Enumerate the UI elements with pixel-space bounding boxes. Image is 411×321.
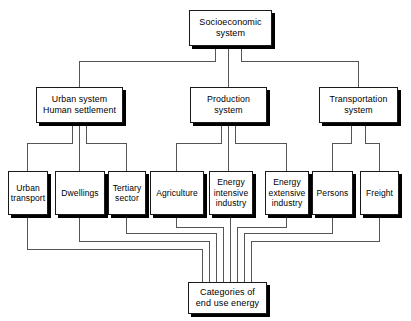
- node-categories-of-end-use-energy[interactable]: Categories of end use energy: [188, 282, 267, 314]
- edge-freight-to-sink: [252, 216, 380, 282]
- node-energy-intensive-industry[interactable]: Energy intensive industry: [209, 171, 253, 215]
- node-dwellings-label: Dwellings: [59, 188, 100, 199]
- node-transportation-system-label: Transportation system: [328, 94, 390, 116]
- node-persons[interactable]: Persons: [312, 171, 353, 215]
- edge-transportation-to-persons: [333, 124, 352, 171]
- edge-persons-to-sink: [245, 216, 333, 282]
- node-dwellings[interactable]: Dwellings: [55, 171, 105, 215]
- node-urban-transport[interactable]: Urban transport: [8, 171, 48, 215]
- node-urban-system-label: Urban system Human settlement: [41, 94, 118, 116]
- node-socioeconomic-system-label: Socioeconomic system: [197, 17, 263, 39]
- flowchart-diagram: Socioeconomic system Urban system Human …: [0, 0, 411, 321]
- edge-transportation-to-freight: [366, 124, 380, 171]
- node-agriculture[interactable]: Agriculture: [150, 171, 204, 215]
- node-transportation-system[interactable]: Transportation system: [319, 87, 398, 123]
- node-energy-extensive-industry-label: Energy extensive industry: [267, 177, 308, 209]
- node-energy-intensive-industry-label: Energy intensive industry: [212, 177, 250, 209]
- node-freight-label: Freight: [364, 188, 395, 199]
- node-tertiary-sector[interactable]: Tertiary sector: [108, 171, 146, 215]
- node-agriculture-label: Agriculture: [154, 188, 200, 199]
- node-production-system-label: Production system: [205, 94, 252, 116]
- node-urban-transport-label: Urban transport: [9, 183, 47, 204]
- node-freight[interactable]: Freight: [360, 171, 399, 215]
- edge-urban-to-tertiary-sector: [87, 124, 127, 171]
- edge-root-to-transportation-system: [242, 47, 359, 87]
- node-categories-of-end-use-energy-label: Categories of end use energy: [194, 287, 261, 309]
- node-persons-label: Persons: [315, 188, 351, 199]
- edge-root-to-urban-system: [80, 47, 216, 87]
- node-production-system[interactable]: Production system: [190, 87, 267, 123]
- node-urban-system[interactable]: Urban system Human settlement: [36, 87, 123, 123]
- edge-urban-to-urban-transport: [28, 124, 73, 171]
- node-energy-extensive-industry[interactable]: Energy extensive industry: [265, 171, 309, 215]
- edge-production-to-agriculture: [177, 124, 222, 171]
- node-tertiary-sector-label: Tertiary sector: [111, 183, 144, 204]
- connector-layer: [0, 0, 411, 321]
- node-socioeconomic-system[interactable]: Socioeconomic system: [189, 10, 272, 46]
- edge-dwellings-to-stink: [80, 216, 210, 282]
- edge-production-to-energy-extensive: [236, 124, 287, 171]
